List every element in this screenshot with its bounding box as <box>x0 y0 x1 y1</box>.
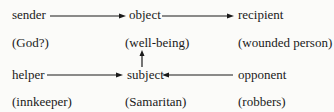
arrows <box>0 0 334 112</box>
